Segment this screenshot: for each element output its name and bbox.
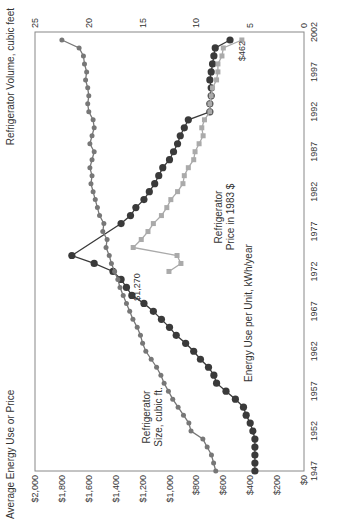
energy-series-label: Energy Use per Unit, kWh/year (243, 244, 254, 382)
x-tick-label: 1952 (309, 421, 319, 441)
left-tick-label: $600 (218, 475, 228, 495)
left-tick-label: $800 (191, 475, 201, 495)
right-tick-label: 10 (191, 18, 201, 28)
left-axis-ticks: $0$200$400$600$800$1,000$1,200$1,400$1,6… (30, 475, 309, 503)
left-tick-label: $200 (272, 475, 282, 495)
price-peak-annotation: $1,270 (132, 273, 142, 301)
rotated-chart-container: Average Energy Use or Price Refrigerator… (0, 0, 340, 527)
left-tick-label: $2,000 (30, 475, 40, 503)
left-tick-label: $1,400 (111, 475, 121, 503)
x-tick-label: 1957 (309, 381, 319, 401)
right-tick-label: 25 (30, 18, 40, 28)
x-tick-label: 1982 (309, 182, 319, 202)
left-tick-label: $0 (299, 475, 309, 485)
x-tick-label: 2002 (309, 22, 319, 42)
size-series-label-line2: Size, cubic ft. (153, 387, 164, 446)
right-axis-ticks: 0510152025 (30, 18, 309, 28)
x-tick-label: 1997 (309, 62, 319, 82)
x-tick-label: 1962 (309, 341, 319, 361)
size-series-label-line1: Refrigerator (141, 390, 152, 443)
x-tick-label: 1987 (309, 142, 319, 162)
price-end-annotation: $462 (237, 41, 247, 61)
plot-frame (35, 32, 304, 471)
x-tick-label: 1947 (309, 461, 319, 481)
right-tick-label: 15 (138, 18, 148, 28)
refrigerator-trends-chart: Average Energy Use or Price Refrigerator… (0, 0, 340, 527)
series-refrigerator-right (59, 37, 218, 473)
left-tick-label: $1,200 (138, 475, 148, 503)
left-axis-title: Average Energy Use or Price (5, 389, 16, 519)
right-axis-title: Refrigerator Volume, cubic feet (5, 8, 16, 146)
x-tick-label: 1967 (309, 301, 319, 321)
right-tick-label: 0 (299, 23, 309, 28)
left-tick-label: $400 (245, 475, 255, 495)
left-tick-label: $1,000 (165, 475, 175, 503)
x-tick-label: 1972 (309, 261, 319, 281)
price-series-label-line1: Refrigerator (213, 190, 224, 243)
right-tick-label: 20 (84, 18, 94, 28)
left-tick-label: $1,800 (57, 475, 67, 503)
price-series-label-line2: Price in 1983 $ (225, 183, 236, 250)
left-tick-label: $1,600 (84, 475, 94, 503)
x-tick-label: 1992 (309, 102, 319, 122)
right-tick-label: 5 (245, 23, 255, 28)
x-tick-label: 1977 (309, 222, 319, 242)
x-axis-ticks: 1947195219571962196719721977198219871992… (309, 22, 319, 481)
